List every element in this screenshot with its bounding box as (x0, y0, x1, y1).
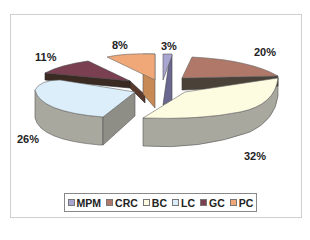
legend-item-mpm: MPM (68, 197, 102, 209)
legend-item-lc: LC (172, 197, 195, 209)
legend-item-pc: PC (230, 197, 254, 209)
label-gc: 11% (35, 51, 56, 63)
legend-item-bc: BC (143, 197, 167, 209)
legend-swatch (230, 199, 237, 206)
label-crc: 20% (254, 46, 276, 58)
label-lc: 26% (17, 133, 39, 145)
legend-item-gc: GC (200, 197, 225, 209)
legend-swatch (200, 199, 207, 206)
legend-swatch (143, 199, 150, 206)
label-mpm: 3% (161, 40, 177, 52)
legend-swatch (68, 199, 75, 206)
label-bc: 32% (244, 150, 266, 162)
legend-swatch (172, 199, 179, 206)
legend: MPM CRC BC LC GC PC (64, 193, 257, 212)
legend-swatch (106, 199, 113, 206)
label-pc: 8% (112, 39, 128, 51)
slice-crc (182, 57, 278, 78)
legend-item-crc: CRC (106, 197, 138, 209)
